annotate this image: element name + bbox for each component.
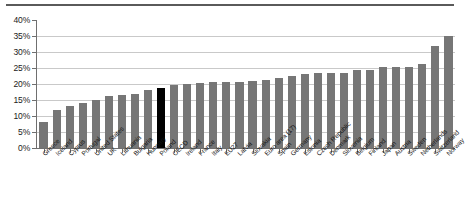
x-axis-tick-label: Latvia xyxy=(236,140,253,157)
